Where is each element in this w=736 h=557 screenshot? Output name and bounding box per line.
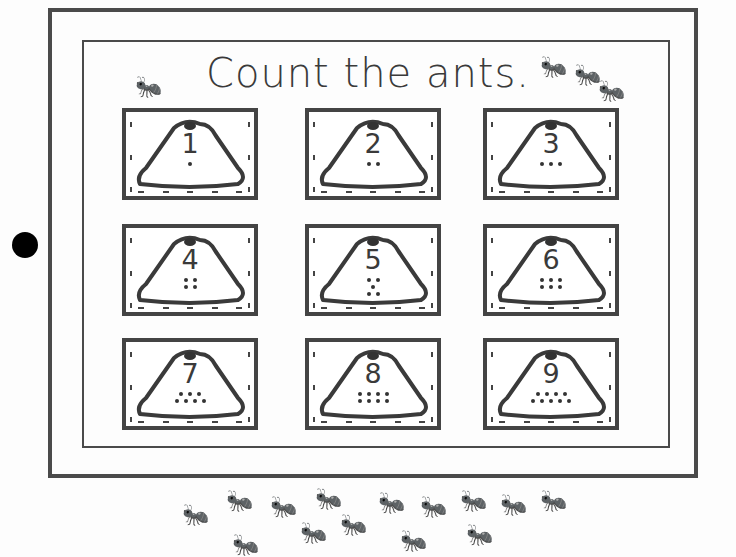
card-number: 8	[309, 358, 437, 389]
ant-icon: 🐜	[574, 64, 601, 86]
ant-icon: 🐜	[540, 490, 567, 512]
binder-hole	[12, 232, 38, 258]
ant-icon: 🐜	[270, 496, 297, 518]
ant-icon: 🐜	[598, 80, 625, 102]
ant-icon: 🐜	[340, 514, 367, 536]
dot-count	[309, 392, 437, 403]
card-number: 4	[126, 244, 254, 275]
dot-count	[487, 162, 615, 166]
ant-icon: 🐜	[540, 56, 567, 78]
ant-icon: 🐜	[460, 490, 487, 512]
ant-icon: 🐜	[400, 530, 427, 552]
ant-icon: 🐜	[135, 76, 162, 98]
ant-icon: 🐜	[315, 488, 342, 510]
anthill-card-7: 7	[122, 338, 258, 430]
dot-count	[126, 392, 254, 403]
anthill-card-5: 5	[305, 224, 441, 316]
ant-icon: 🐜	[182, 504, 209, 526]
card-number: 5	[309, 244, 437, 275]
anthill-card-9: 9	[483, 338, 619, 430]
anthill-card-4: 4	[122, 224, 258, 316]
ant-icon: 🐜	[300, 522, 327, 544]
ant-icon: 🐜	[420, 496, 447, 518]
card-number: 9	[487, 358, 615, 389]
anthill-card-3: 3	[483, 108, 619, 200]
card-number: 1	[126, 128, 254, 159]
card-number: 2	[309, 128, 437, 159]
card-number: 7	[126, 358, 254, 389]
card-number: 6	[487, 244, 615, 275]
ant-icon: 🐜	[378, 492, 405, 514]
ant-icon: 🐜	[500, 494, 527, 516]
worksheet-title: Count the ants.	[0, 50, 736, 96]
dot-count	[126, 278, 254, 289]
ant-icon: 🐜	[466, 524, 493, 546]
ant-icon: 🐜	[226, 490, 253, 512]
anthill-card-1: 1	[122, 108, 258, 200]
dot-count	[487, 278, 615, 289]
dot-count	[309, 278, 437, 296]
dot-count	[487, 392, 615, 403]
dot-count	[126, 162, 254, 166]
anthill-card-6: 6	[483, 224, 619, 316]
ant-icon: 🐜	[232, 534, 259, 556]
anthill-card-2: 2	[305, 108, 441, 200]
dot-count	[309, 162, 437, 166]
card-number: 3	[487, 128, 615, 159]
anthill-card-8: 8	[305, 338, 441, 430]
